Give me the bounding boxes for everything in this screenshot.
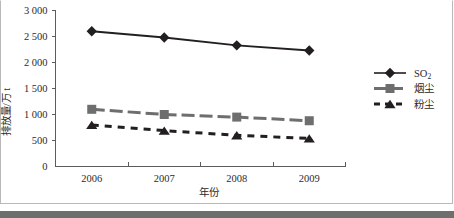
y-axis-ticks [52,11,56,141]
series-line [92,31,310,50]
x-axis-tick-labels: 2006200720082009 [81,173,320,184]
legend-item-1: SO2 [374,68,431,82]
x-tick-label: 2007 [154,173,175,184]
y-tick-label: 3 000 [24,5,48,16]
data-point-2-2 [160,110,169,119]
data-point-legend-2 [386,84,395,93]
bottom-status-bar [0,211,454,218]
data-point-2-4 [305,116,314,125]
data-point-2-3 [232,113,241,122]
legend-label-subscript: 2 [427,72,431,81]
x-axis-ticks [128,162,346,167]
y-tick-label: 2 500 [24,31,48,42]
data-point-1-4 [304,45,314,55]
y-tick-label: 1 000 [24,109,48,120]
series-3 [86,121,315,143]
legend-label: 烟尘 [414,82,435,94]
y-tick-label: 0 [42,161,47,172]
data-point-1-2 [159,32,169,42]
legend-label: 粉尘 [414,98,435,110]
data-point-2-1 [87,105,96,114]
data-point-1-1 [87,26,97,36]
series-line [92,109,310,120]
legend-label: SO2 [414,68,431,82]
series-1 [87,26,315,56]
emissions-line-chart: 05001 0001 5002 0002 5003 000 2006200720… [0,0,454,211]
y-tick-label: 2 000 [24,57,48,68]
legend-item-3: 粉尘 [374,98,435,110]
series-layer [86,26,315,143]
chart-page: 05001 0001 5002 0002 5003 000 2006200720… [0,0,454,218]
x-tick-label: 2008 [226,173,247,184]
series-line [92,125,310,139]
series-2 [87,105,314,125]
chart-legend: SO2烟尘粉尘 [374,68,435,110]
y-tick-label: 500 [32,135,48,146]
y-axis-tick-labels: 05001 0001 5002 0002 5003 000 [24,5,48,172]
data-point-legend-1 [385,68,395,78]
y-tick-label: 1 500 [24,83,48,94]
x-tick-label: 2009 [299,173,320,184]
y-axis-title: 排放量/万 t [0,88,12,137]
x-axis-title: 年份 [199,186,220,198]
x-tick-label: 2006 [81,173,102,184]
legend-item-2: 烟尘 [374,82,435,94]
axes-group [52,11,346,167]
data-point-1-3 [232,40,242,50]
